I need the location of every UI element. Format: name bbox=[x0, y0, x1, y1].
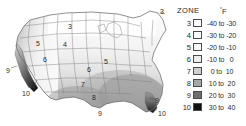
legend-unit-label: °F bbox=[220, 6, 227, 16]
map-zone-label-9-california-coast: 9 bbox=[6, 67, 10, 74]
legend-range-label: 10 to 20 bbox=[207, 80, 235, 87]
map-zone-label-6-nevada: 6 bbox=[43, 56, 47, 63]
map-zone-label-8-texas: 8 bbox=[92, 94, 96, 101]
legend-color-swatch bbox=[193, 55, 202, 63]
fahrenheit-label: F bbox=[222, 7, 227, 16]
legend-zone-number: 10 bbox=[176, 103, 193, 112]
map-zone-label-10-south-florida: 10 bbox=[158, 110, 166, 117]
map-zone-label-5-idaho: 5 bbox=[36, 40, 40, 47]
legend-color-swatch bbox=[193, 91, 202, 99]
legend-color-swatch bbox=[193, 79, 202, 87]
legend-color-swatch bbox=[193, 103, 202, 111]
legend: ZONE °F 3 -40 to -30 4 -30 to -20 5 -20 … bbox=[176, 6, 246, 113]
legend-range-label: 30 to 40 bbox=[207, 104, 235, 111]
legend-color-swatch bbox=[193, 43, 202, 51]
legend-range-label: -20 to -10 bbox=[207, 44, 236, 51]
legend-zone-number: 5 bbox=[176, 43, 193, 52]
legend-range-label: -40 to -30 bbox=[207, 20, 236, 27]
legend-zone-number: 3 bbox=[176, 19, 193, 28]
legend-color-swatch bbox=[193, 67, 202, 75]
legend-range-label: 20 to 30 bbox=[207, 92, 235, 99]
us-map-graphic bbox=[0, 0, 176, 126]
map-zone-label-3-maine: 3 bbox=[160, 8, 164, 15]
legend-header: ZONE °F bbox=[176, 6, 246, 17]
legend-color-swatch bbox=[193, 19, 202, 27]
map-zone-label-4-nebraska: 4 bbox=[63, 41, 67, 48]
legend-row-zone-10: 10 30 to 40 bbox=[176, 101, 246, 113]
legend-zone-number: 7 bbox=[176, 67, 193, 76]
map-zone-label-9-florida: 9 bbox=[155, 97, 159, 104]
us-map: 3 3 4 5 5 6 6 7 8 9 9 9 10 10 bbox=[0, 0, 176, 126]
legend-range-label: -30 to -20 bbox=[207, 32, 236, 39]
map-zone-label-9-south-texas: 9 bbox=[98, 110, 102, 117]
legend-row-zone-8: 8 10 to 20 bbox=[176, 77, 246, 89]
map-zone-label-7-oklahoma: 7 bbox=[81, 81, 85, 88]
legend-row-zone-4: 4 -30 to -20 bbox=[176, 29, 246, 41]
legend-row-zone-7: 7 0 to 10 bbox=[176, 65, 246, 77]
legend-zone-number: 4 bbox=[176, 31, 193, 40]
map-zone-label-3-north-dakota: 3 bbox=[68, 23, 72, 30]
legend-range-label: -10 to 0 bbox=[207, 56, 234, 63]
legend-zone-number: 8 bbox=[176, 79, 193, 88]
legend-zone-number: 6 bbox=[176, 55, 193, 64]
legend-row-zone-3: 3 -40 to -30 bbox=[176, 17, 246, 29]
legend-row-zone-6: 6 -10 to 0 bbox=[176, 53, 246, 65]
legend-row-zone-9: 9 20 to 30 bbox=[176, 89, 246, 101]
map-zone-label-6-kansas: 6 bbox=[87, 66, 91, 73]
map-zone-label-10-southern-california: 10 bbox=[22, 90, 30, 97]
climate-zone-map-figure: 3 3 4 5 5 6 6 7 8 9 9 9 10 10 ZONE °F 3 … bbox=[0, 0, 246, 126]
map-zone-label-5-illinois: 5 bbox=[104, 58, 108, 65]
legend-row-zone-5: 5 -20 to -10 bbox=[176, 41, 246, 53]
legend-zone-number: 9 bbox=[176, 91, 193, 100]
legend-range-label: 0 to 10 bbox=[207, 68, 233, 75]
legend-color-swatch bbox=[193, 31, 202, 39]
legend-title: ZONE bbox=[177, 6, 199, 15]
